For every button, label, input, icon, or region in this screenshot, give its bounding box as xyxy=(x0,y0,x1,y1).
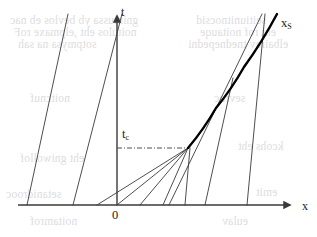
characteristic-6 xyxy=(163,148,188,205)
characteristic-7 xyxy=(185,148,190,205)
characteristic-1 xyxy=(27,14,68,205)
axes-group xyxy=(18,16,290,205)
characteristic-2 xyxy=(73,14,122,205)
shock-curve-label-subscript: S xyxy=(287,22,291,31)
characteristics-figure: gnimussa yb bevlos eb nacnoitulos eht ,e… xyxy=(0,0,317,237)
origin-label: 0 xyxy=(112,208,118,223)
characteristic-5 xyxy=(140,148,188,205)
critical-time-label: tc xyxy=(122,127,129,142)
x-axis-label: x xyxy=(302,199,308,214)
characteristic-9 xyxy=(247,14,265,205)
shock-curve-label: xS xyxy=(281,16,292,31)
characteristic-3 xyxy=(97,148,188,205)
characteristic-lines-group xyxy=(27,14,265,205)
critical-time-label-subscript: c xyxy=(125,133,129,142)
t-axis-label: t xyxy=(121,5,124,20)
characteristic-4 xyxy=(117,148,188,205)
characteristic-8 xyxy=(205,78,233,205)
plot-canvas xyxy=(0,0,317,237)
